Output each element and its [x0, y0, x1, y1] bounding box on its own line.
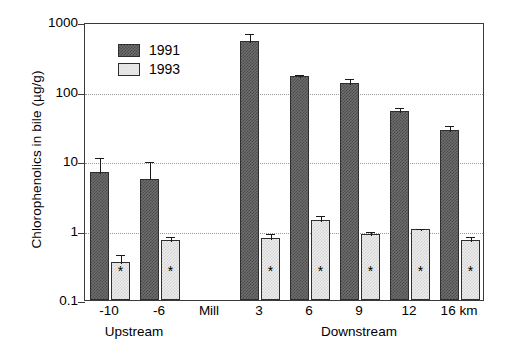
error-bar-cap: [295, 75, 304, 76]
significance-star: *: [118, 264, 123, 278]
legend-label-1991: 1991: [149, 42, 180, 58]
y-axis-tick: [78, 163, 85, 164]
bar-1993-6[interactable]: [311, 220, 330, 300]
plot-area: ******* 1991 1993: [84, 23, 484, 301]
significance-star: *: [418, 264, 423, 278]
x-axis-tick-label: Mill: [199, 304, 219, 318]
legend: 1991 1993: [118, 42, 180, 80]
error-bar-cap: [366, 232, 375, 233]
bar-group: [185, 24, 235, 300]
bar-1991--6[interactable]: [140, 179, 159, 300]
error-bar-cap: [116, 255, 125, 256]
x-axis-tick-label: 3: [255, 304, 263, 318]
error-bar: [100, 158, 101, 174]
significance-star: *: [368, 264, 373, 278]
bar-1991-6[interactable]: [290, 76, 309, 300]
legend-label-1993: 1993: [149, 61, 180, 77]
bar-1991--10[interactable]: [90, 172, 109, 300]
bar-1991-9[interactable]: [340, 83, 359, 300]
y-axis-tick-labels: 10001001010.1: [26, 23, 78, 301]
significance-star: *: [268, 264, 273, 278]
x-axis-tick-label: 12: [401, 304, 416, 318]
x-axis-tick-label: -10: [99, 304, 119, 318]
error-bar: [250, 34, 251, 43]
legend-item-1993: 1993: [118, 61, 180, 77]
x-axis-tick-labels: -10-6Mill3691216 km: [84, 304, 484, 322]
y-axis-tick-label: 100: [55, 86, 78, 100]
legend-item-1991: 1991: [118, 42, 180, 58]
bar-group: [435, 24, 485, 300]
bar-1991-16-km[interactable]: [440, 130, 459, 300]
error-bar-cap: [245, 34, 254, 35]
bar-1991-12[interactable]: [390, 111, 409, 300]
chart-figure: Chlorophenolics in bile (µg/g) 100010010…: [0, 0, 510, 352]
error-bar-cap: [166, 237, 175, 238]
y-axis-tick-label: 1000: [48, 16, 78, 30]
legend-swatch-1991: [118, 44, 140, 57]
significance-star: *: [468, 264, 473, 278]
x-axis-tick-label: -6: [153, 304, 165, 318]
x-axis-group-label: Downstream: [321, 325, 397, 339]
x-axis-tick-label: 16 km: [441, 304, 478, 318]
error-bar-cap: [316, 216, 325, 217]
y-axis-tick-label: 0.1: [59, 294, 78, 308]
bar-group: [385, 24, 435, 300]
significance-star: *: [168, 264, 173, 278]
bar-group: [235, 24, 285, 300]
y-axis-tick: [78, 24, 85, 25]
y-axis-tick-label: 10: [63, 155, 78, 169]
error-bar-cap: [345, 79, 354, 80]
x-axis-group-label: Upstream: [105, 325, 164, 339]
error-bar: [150, 162, 151, 180]
error-bar-cap: [95, 158, 104, 159]
error-bar-cap: [266, 234, 275, 235]
y-axis-tick: [78, 94, 85, 95]
y-axis-tick: [78, 302, 85, 303]
legend-swatch-1993: [118, 63, 140, 76]
x-axis-group-labels: UpstreamDownstream: [84, 325, 484, 343]
error-bar-cap: [445, 126, 454, 127]
bar-group: [285, 24, 335, 300]
bar-group: [335, 24, 385, 300]
y-axis-tick: [78, 233, 85, 234]
error-bar-cap: [395, 108, 404, 109]
y-axis-tick-label: 1: [70, 225, 78, 239]
error-bar-cap: [416, 229, 425, 230]
significance-star: *: [318, 264, 323, 278]
x-axis-tick-label: 9: [355, 304, 363, 318]
bar-1991-3[interactable]: [240, 41, 259, 300]
error-bar-cap: [466, 237, 475, 238]
error-bar-cap: [145, 162, 154, 163]
x-axis-tick-label: 6: [305, 304, 313, 318]
